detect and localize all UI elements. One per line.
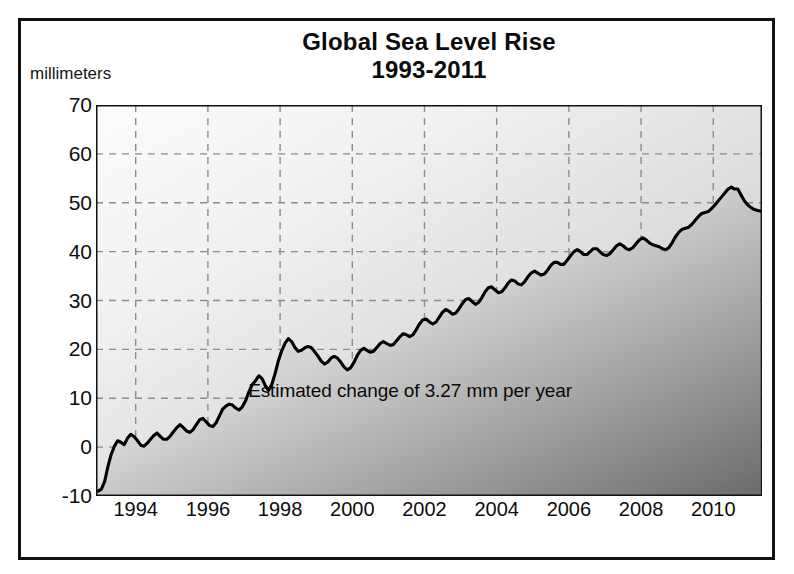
- x-tick-label: 2000: [330, 498, 375, 521]
- x-tick-label: 1994: [113, 498, 158, 521]
- y-axis-ticks: -10010203040506070: [8, 0, 92, 574]
- y-tick-label: -10: [18, 484, 92, 508]
- x-tick-label: 2002: [402, 498, 447, 521]
- x-tick-label: 2006: [547, 498, 592, 521]
- y-tick-label: 40: [18, 240, 92, 264]
- y-tick-label: 0: [18, 435, 92, 459]
- x-tick-label: 1996: [186, 498, 231, 521]
- trend-annotation: Estimated change of 3.27 mm per year: [248, 380, 572, 402]
- figure-root: Global Sea Level Rise 1993-2011 millimet…: [0, 0, 794, 574]
- chart-title-line2: 1993-2011: [96, 56, 762, 84]
- x-tick-label: 1998: [258, 498, 303, 521]
- chart-title: Global Sea Level Rise 1993-2011: [96, 28, 762, 84]
- y-tick-label: 70: [18, 93, 92, 117]
- y-tick-label: 10: [18, 386, 92, 410]
- y-tick-label: 50: [18, 191, 92, 215]
- plot-area: [96, 105, 762, 496]
- x-tick-label: 2010: [691, 498, 736, 521]
- y-tick-label: 30: [18, 289, 92, 313]
- x-tick-label: 2004: [474, 498, 519, 521]
- x-tick-label: 2008: [619, 498, 664, 521]
- y-tick-label: 20: [18, 337, 92, 361]
- y-tick-label: 60: [18, 142, 92, 166]
- chart-title-line1: Global Sea Level Rise: [302, 28, 556, 55]
